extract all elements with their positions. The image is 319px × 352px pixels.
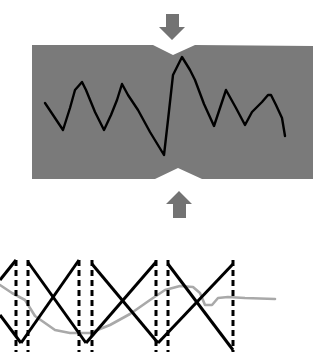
zigzag-lines bbox=[0, 260, 233, 350]
arrow-up-icon bbox=[166, 191, 192, 218]
diagram-canvas bbox=[0, 0, 319, 352]
zigzag-segment bbox=[0, 260, 16, 280]
zigzag-segment bbox=[168, 264, 233, 350]
zigzag-segment bbox=[21, 260, 79, 343]
notched-specimen bbox=[32, 45, 313, 179]
zigzag-segment bbox=[92, 264, 158, 343]
zigzag-segment bbox=[0, 315, 21, 343]
arrow-down-icon bbox=[159, 14, 185, 40]
